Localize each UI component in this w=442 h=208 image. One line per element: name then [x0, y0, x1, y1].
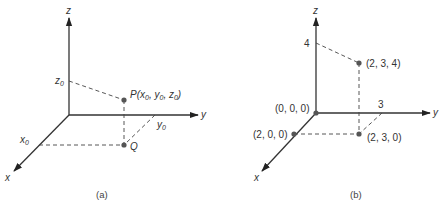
point-q-label: Q [130, 141, 138, 152]
y0-projection-line [124, 115, 155, 145]
y-axis-label: y [200, 109, 207, 120]
point-2-3-0 [356, 131, 361, 136]
point-2-0-0-label: (2, 0, 0) [253, 129, 287, 140]
x-axis-label: x [253, 172, 260, 183]
z-axis-label: z [312, 5, 318, 16]
x0-label: x0 [19, 134, 29, 146]
point-2-3-4-label: (2, 3, 4) [366, 58, 400, 69]
z-axis-label: z [65, 5, 71, 16]
y3-projection-line [359, 113, 382, 134]
caption-a: (a) [96, 189, 108, 200]
point-p [121, 97, 126, 102]
y-tick-3: 3 [378, 99, 384, 110]
y0-label: y0 [156, 119, 166, 131]
z0-projection-line [69, 81, 124, 100]
panel-b: z y x 4 3 (0, 0, 0) (2, 0, 0) (2, 3, 0) … [253, 5, 439, 200]
z4-projection-line [316, 43, 359, 63]
z0-label: z0 [54, 75, 64, 87]
point-q [121, 142, 126, 147]
z-tick-4: 4 [304, 38, 310, 49]
point-origin [313, 110, 318, 115]
origin-label: (0, 0, 0) [275, 103, 309, 114]
point-p-label: P(x0, y0, z0) [130, 89, 181, 101]
caption-b: (b) [350, 189, 362, 200]
point-2-3-0-label: (2, 3, 0) [367, 132, 401, 143]
point-2-0-0 [291, 131, 296, 136]
point-2-3-4 [356, 60, 361, 65]
panel-a: z y x z0 y0 x0 P(x0, y0, z0) Q (a) [4, 5, 207, 200]
x-axis [262, 113, 316, 171]
x-axis-label: x [4, 172, 11, 183]
y-axis-label: y [432, 107, 439, 118]
figure-3d-coordinates: z y x z0 y0 x0 P(x0, y0, z0) Q (a) z y x [0, 0, 442, 208]
